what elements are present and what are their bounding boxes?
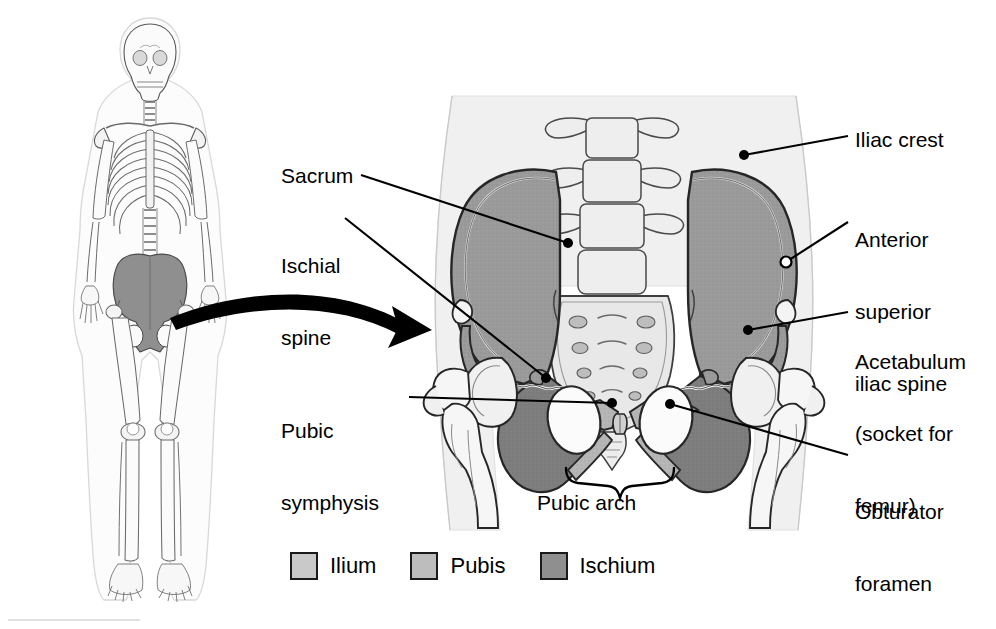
label-pubic-symphysis-line2: symphysis xyxy=(281,491,379,515)
marker-iliac-crest xyxy=(739,150,749,160)
bone-region-legend: Ilium Pubis Ischium xyxy=(290,552,655,580)
marker-anterior-superior-iliac-spine xyxy=(781,257,792,268)
legend-swatch-ischium xyxy=(540,552,568,580)
label-acetabulum-line1: Acetabulum xyxy=(855,350,966,374)
label-iliac-crest: Iliac crest xyxy=(855,128,944,152)
marker-pubic-symphysis xyxy=(607,398,617,408)
label-ischial-spine-line1: Ischial xyxy=(281,254,341,278)
label-pubic-arch: Pubic arch xyxy=(537,491,636,515)
label-asis-line1: Anterior xyxy=(855,228,947,252)
label-sacrum: Sacrum xyxy=(281,164,353,188)
legend-item-ilium: Ilium xyxy=(290,552,376,580)
marker-ischial-spine xyxy=(541,373,551,383)
label-obturator-foramen: Obturator foramen xyxy=(855,452,944,629)
pubic-symphysis-joint xyxy=(613,414,627,434)
legend-item-pubis: Pubis xyxy=(410,552,505,580)
marker-acetabulum xyxy=(743,325,753,335)
label-pubic-symphysis-line1: Pubic xyxy=(281,419,379,443)
pelvis-anatomy-illustration xyxy=(0,0,996,629)
label-obturator-foramen-line2: foramen xyxy=(855,572,944,596)
label-acetabulum-line2: (socket for xyxy=(855,422,966,446)
enlarged-pelvis xyxy=(424,96,825,530)
legend-label-ischium: Ischium xyxy=(580,553,656,579)
legend-label-ilium: Ilium xyxy=(330,553,376,579)
legend-label-pubis: Pubis xyxy=(450,553,505,579)
legend-item-ischium: Ischium xyxy=(540,552,656,580)
legend-swatch-ilium xyxy=(290,552,318,580)
legend-swatch-pubis xyxy=(410,552,438,580)
label-obturator-foramen-line1: Obturator xyxy=(855,500,944,524)
label-ischial-spine: Ischial spine xyxy=(281,206,341,398)
figure-canvas: Sacrum Ischial spine Pubic symphysis Pub… xyxy=(0,0,996,629)
marker-obturator-foramen xyxy=(665,399,675,409)
marker-sacrum xyxy=(563,238,573,248)
label-ischial-spine-line2: spine xyxy=(281,326,341,350)
label-pubic-symphysis: Pubic symphysis xyxy=(281,371,379,563)
